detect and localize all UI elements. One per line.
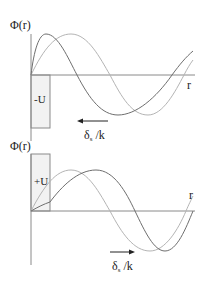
bottom-panel: Φ(r) r +U δs /k (10, 139, 195, 274)
x-axis-label: r (189, 188, 193, 202)
phase-shift-diagram: Φ(r) r -U δs /k Φ(r) r +U δs /k (0, 0, 207, 284)
top-panel: Φ(r) r -U δs /k (10, 18, 195, 143)
potential-label: +U (34, 175, 48, 187)
y-axis-label: Φ(r) (10, 139, 31, 153)
x-axis-label: r (187, 78, 191, 92)
potential-label: -U (34, 93, 46, 105)
shift-label: δs /k (84, 128, 105, 143)
shift-arrow-left (77, 119, 108, 124)
y-axis-label: Φ(r) (10, 18, 31, 32)
shift-label: δs /k (112, 259, 133, 274)
shift-arrow-right (110, 250, 135, 255)
